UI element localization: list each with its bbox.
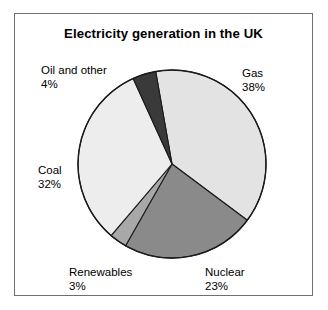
- pie-label-gas-value: 38%: [242, 80, 265, 94]
- pie-label-nuclear-value: 23%: [205, 279, 245, 293]
- pie-label-nuclear-text: Nuclear: [205, 266, 245, 278]
- pie-label-gas-text: Gas: [242, 67, 263, 79]
- pie-label-renewables-value: 3%: [69, 279, 132, 293]
- pie-label-gas: Gas 38%: [242, 66, 265, 94]
- pie-slice-group: [78, 70, 266, 258]
- figure-container: Electricity generation in the UK Oil and…: [0, 0, 328, 310]
- pie-label-renewables-text: Renewables: [69, 266, 132, 278]
- pie-label-coal-value: 32%: [38, 177, 62, 191]
- pie-label-nuclear: Nuclear 23%: [205, 265, 245, 293]
- pie-label-renewables: Renewables 3%: [69, 265, 132, 293]
- pie-chart: [0, 0, 328, 310]
- pie-label-coal-text: Coal: [38, 164, 62, 176]
- pie-label-oil-and-other-value: 4%: [41, 77, 107, 91]
- pie-label-oil-and-other-text: Oil and other: [41, 64, 107, 76]
- pie-label-coal: Coal 32%: [38, 163, 62, 191]
- pie-label-oil-and-other: Oil and other 4%: [41, 63, 107, 91]
